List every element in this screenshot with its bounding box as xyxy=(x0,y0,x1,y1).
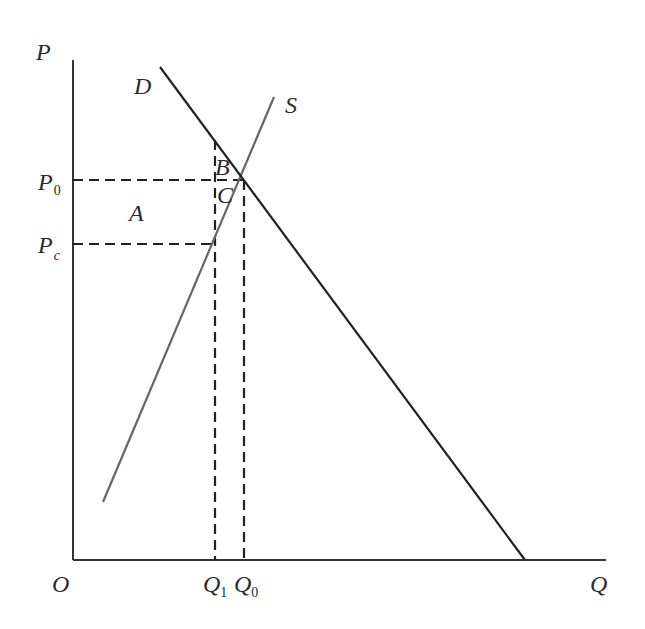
q0-label: Q0 xyxy=(234,571,258,600)
supply-curve xyxy=(103,97,274,502)
region-a-label: A xyxy=(127,200,144,226)
demand-label: D xyxy=(133,73,151,99)
origin-label: O xyxy=(52,571,69,597)
p0-label: P0 xyxy=(37,169,61,198)
supply-demand-diagram: P Q O D S P0 Pc Q1 Q0 A B C xyxy=(0,0,645,629)
demand-curve xyxy=(160,67,525,560)
price-axis-label: P xyxy=(35,39,51,65)
q1-label: Q1 xyxy=(203,571,227,600)
pc-label: Pc xyxy=(37,232,61,263)
region-b-label: B xyxy=(215,154,230,180)
quantity-axis-label: Q xyxy=(590,571,607,597)
region-c-label: C xyxy=(217,182,234,208)
supply-label: S xyxy=(285,92,297,118)
